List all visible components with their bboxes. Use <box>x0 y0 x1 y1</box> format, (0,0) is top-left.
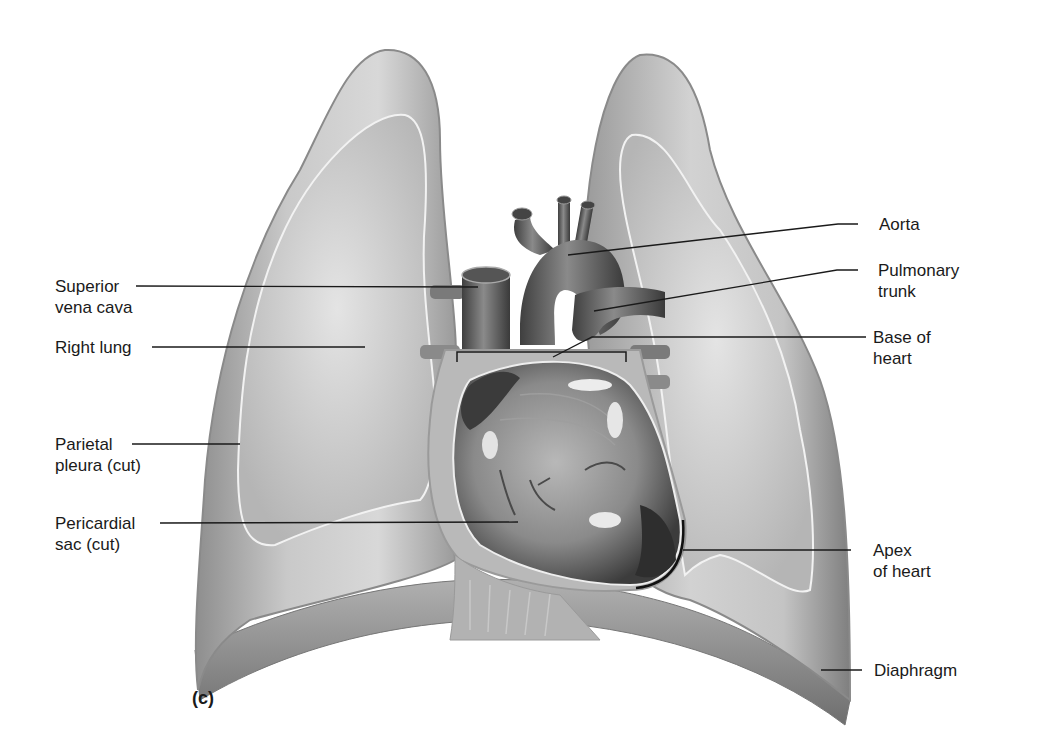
label-line-1: Superior <box>55 276 133 297</box>
label-parietal-pleura: Parietal pleura (cut) <box>55 434 141 476</box>
anatomy-illustration <box>0 0 1038 741</box>
label-line-1: Base of <box>873 327 931 348</box>
label-pericardial-sac: Pericardial sac (cut) <box>55 513 135 555</box>
label-line-1: Aorta <box>879 214 920 235</box>
right-lung-pleura-outline <box>238 115 436 546</box>
label-apex-of-heart: Apex of heart <box>873 540 931 582</box>
label-line-2: trunk <box>878 281 959 302</box>
brachiocephalic-artery-shape <box>514 215 555 255</box>
label-line-1: Pulmonary <box>878 260 959 281</box>
label-line-1: Right lung <box>55 337 132 358</box>
label-line-2: of heart <box>873 561 931 582</box>
label-line-1: Pericardial <box>55 513 135 534</box>
label-line-1: Parietal <box>55 434 141 455</box>
panel-letter: (c) <box>192 688 214 709</box>
label-line-2: heart <box>873 348 931 369</box>
label-aorta: Aorta <box>879 214 920 235</box>
label-line-2: pleura (cut) <box>55 455 141 476</box>
label-diaphragm: Diaphragm <box>874 660 957 681</box>
label-line-1: Diaphragm <box>874 660 957 681</box>
label-line-2: vena cava <box>55 297 133 318</box>
label-pulmonary-trunk: Pulmonary trunk <box>878 260 959 302</box>
label-line-1: Apex <box>873 540 931 561</box>
label-superior-vena-cava: Superior vena cava <box>55 276 133 318</box>
label-right-lung: Right lung <box>55 337 132 358</box>
label-line-2: sac (cut) <box>55 534 135 555</box>
label-base-of-heart: Base of heart <box>873 327 931 369</box>
superior-vena-cava-shape <box>462 275 510 350</box>
